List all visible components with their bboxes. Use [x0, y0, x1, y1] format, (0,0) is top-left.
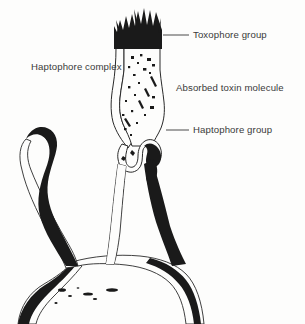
haptophore-diagram — [0, 0, 305, 324]
label-absorbed-toxin-molecule: Absorbed toxin molecule — [176, 82, 284, 93]
label-haptophore-complex: Haptophore complex — [31, 61, 122, 72]
label-toxophore-group: Toxophore group — [193, 29, 267, 40]
toxin-column — [111, 44, 164, 148]
label-haptophore-group: Haptophore group — [193, 124, 272, 135]
